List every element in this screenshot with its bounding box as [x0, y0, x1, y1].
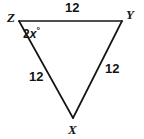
vertex-label-x: X	[68, 123, 77, 136]
side-length-label-zy: 12	[65, 1, 79, 14]
side-length-label-zx: 12	[29, 70, 43, 83]
geometry-figure: Z Y X 12 12 12 2x°	[0, 0, 144, 139]
vertex-label-z: Z	[7, 11, 15, 24]
angle-measure-label-z: 2x°	[23, 26, 40, 40]
side-length-label-yx: 12	[105, 62, 119, 75]
angle-coefficient: 2	[23, 27, 30, 41]
degree-symbol: °	[36, 25, 40, 35]
vertex-label-y: Y	[126, 8, 134, 21]
triangle-shape	[0, 0, 144, 139]
